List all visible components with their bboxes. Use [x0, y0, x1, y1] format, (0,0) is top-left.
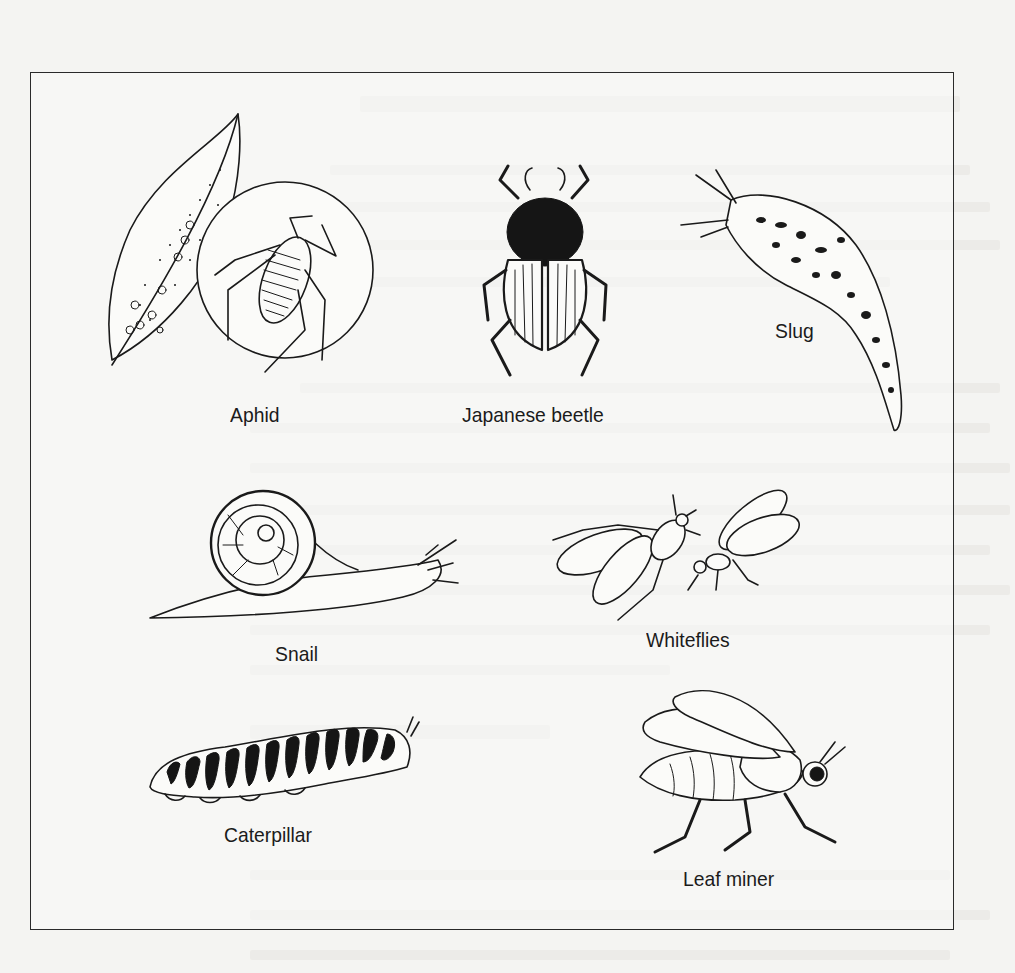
beetle-icon: [484, 166, 606, 375]
slug-illustration: [676, 165, 916, 435]
label-japanese-beetle: Japanese beetle: [462, 403, 604, 427]
snail-icon: [150, 491, 458, 618]
caterpillar-icon: [150, 717, 419, 803]
label-whiteflies: Whiteflies: [646, 628, 730, 652]
snail-illustration: [148, 485, 468, 625]
whitefly-icon: [552, 495, 700, 620]
caterpillar-illustration: [145, 712, 420, 802]
slug-icon: [681, 170, 901, 430]
aphid-illustration: [100, 110, 380, 380]
label-snail: Snail: [275, 642, 318, 666]
label-caterpillar: Caterpillar: [224, 823, 312, 847]
leaf-miner-icon: [640, 691, 845, 852]
label-slug: Slug: [775, 319, 814, 343]
aphid-icon: [197, 182, 373, 372]
leaf-miner-illustration: [635, 682, 850, 862]
japanese-beetle-illustration: [470, 160, 620, 385]
whiteflies-illustration: [548, 490, 803, 630]
whitefly-icon: [688, 481, 805, 590]
label-leaf-miner: Leaf miner: [683, 867, 774, 891]
label-aphid: Aphid: [230, 403, 279, 427]
